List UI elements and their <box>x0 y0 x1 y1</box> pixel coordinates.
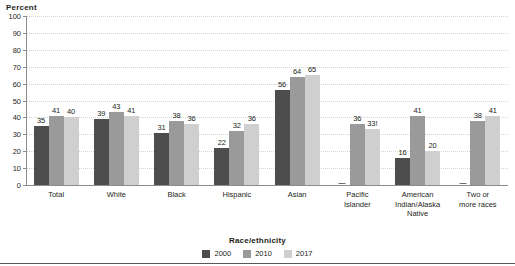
bar-value-label: 43 <box>112 102 120 111</box>
bar <box>214 148 229 185</box>
bar-slot: 40 <box>64 16 79 185</box>
bar <box>350 124 365 185</box>
bar-value-label: 32 <box>233 121 241 130</box>
bar-value-label: 16 <box>398 148 406 157</box>
bar-value-label: 56 <box>278 80 286 89</box>
bar <box>244 124 259 185</box>
bar-value-label: 41 <box>489 106 497 115</box>
bar-slot: 32 <box>229 16 244 185</box>
bar <box>275 90 290 185</box>
bar-slot: 56 <box>275 16 290 185</box>
bar-value-label: 20 <box>428 141 436 150</box>
legend-label: 2000 <box>214 249 231 258</box>
bar <box>49 116 64 185</box>
bar-slot: 43 <box>109 16 124 185</box>
x-axis-category-label: Black <box>147 190 207 200</box>
legend-swatch <box>202 250 210 258</box>
legend-item[interactable]: 2010 <box>243 249 272 258</box>
bar-chart: Percent 0102030405060708090100 354140394… <box>0 0 515 266</box>
bar-slot: 36 <box>244 16 259 185</box>
bar-value-label: 38 <box>474 111 482 120</box>
bar-group: 566465 <box>275 16 320 185</box>
bar-value-label: 40 <box>67 107 75 116</box>
x-axis-category-label: White <box>86 190 146 200</box>
bar <box>410 116 425 185</box>
y-axis-tick-mark <box>23 33 26 34</box>
x-axis-category-label: PacificIslander <box>327 190 387 209</box>
bar-slot: 33! <box>365 16 380 185</box>
bar-value-label: 38 <box>172 111 180 120</box>
x-axis-line <box>26 185 508 186</box>
bar-slot: 16 <box>395 16 410 185</box>
bar-value-label: 22 <box>218 138 226 147</box>
y-axis-tick-mark <box>23 151 26 152</box>
y-axis-tick-mark <box>23 117 26 118</box>
bar-slot <box>335 16 350 185</box>
bar <box>64 117 79 185</box>
x-axis-category-label: Hispanic <box>207 190 267 200</box>
bar <box>109 112 124 185</box>
bar-slot: 22 <box>214 16 229 185</box>
x-axis-title: Race/ethnicity <box>0 236 515 245</box>
bar <box>470 121 485 185</box>
bar-group: 3633! <box>335 16 380 185</box>
bar-value-label: 35 <box>37 116 45 125</box>
legend-item[interactable]: 2000 <box>202 249 231 258</box>
y-axis-tick-mark <box>23 134 26 135</box>
bottom-divider <box>0 263 515 264</box>
bar-slot: 41 <box>124 16 139 185</box>
bar-value-label: 41 <box>127 106 135 115</box>
bar-slot: 41 <box>485 16 500 185</box>
legend-item[interactable]: 2017 <box>284 249 313 258</box>
y-axis-tick-mark <box>23 67 26 68</box>
bar-slot: 38 <box>470 16 485 185</box>
bar-slot: 31 <box>154 16 169 185</box>
bar <box>305 75 320 185</box>
legend-swatch <box>284 250 292 258</box>
y-axis-tick-label: 90 <box>2 28 21 37</box>
legend-label: 2010 <box>255 249 272 258</box>
bar-value-label: 33! <box>367 119 377 128</box>
bar-slot <box>455 16 470 185</box>
bar-value-label: 36 <box>248 114 256 123</box>
missing-data-dash <box>459 183 466 184</box>
bar-slot: 41 <box>410 16 425 185</box>
x-axis-category-label: AmericanIndian/AlaskaNative <box>388 190 448 219</box>
y-axis-tick-label: 20 <box>2 147 21 156</box>
bar <box>184 124 199 185</box>
bar-group: 164120 <box>395 16 440 185</box>
bar <box>94 119 109 185</box>
y-axis-tick-mark <box>23 185 26 186</box>
x-axis-category-label: Asian <box>267 190 327 200</box>
chart-legend: 200020102017 <box>0 249 515 258</box>
y-axis-tick-label: 50 <box>2 96 21 105</box>
y-axis-tick-label: 70 <box>2 62 21 71</box>
bar <box>485 116 500 185</box>
y-axis-tick-label: 0 <box>2 181 21 190</box>
y-axis-tick-label: 40 <box>2 113 21 122</box>
legend-label: 2017 <box>296 249 313 258</box>
x-axis-category-label: Total <box>26 190 86 200</box>
y-axis-tick-mark <box>23 50 26 51</box>
bar-group: 354140 <box>34 16 79 185</box>
bar-value-label: 65 <box>308 65 316 74</box>
bar-value-label: 41 <box>52 106 60 115</box>
bar-group: 3841 <box>455 16 500 185</box>
bar-slot: 36 <box>350 16 365 185</box>
y-axis-tick-mark <box>23 84 26 85</box>
bar-slot: 64 <box>290 16 305 185</box>
bar-value-label: 31 <box>157 123 165 132</box>
bar-value-label: 36 <box>353 114 361 123</box>
bar-slot: 20 <box>425 16 440 185</box>
bar-slot: 38 <box>169 16 184 185</box>
bar <box>365 129 380 185</box>
x-axis-category-label: Two ormore races <box>448 190 508 209</box>
bar <box>290 77 305 185</box>
bar <box>169 121 184 185</box>
bar-group: 394341 <box>94 16 139 185</box>
bar-group: 223236 <box>214 16 259 185</box>
y-axis-tick-label: 10 <box>2 164 21 173</box>
y-axis-tick-label: 60 <box>2 79 21 88</box>
missing-data-dash <box>339 183 346 184</box>
legend-swatch <box>243 250 251 258</box>
